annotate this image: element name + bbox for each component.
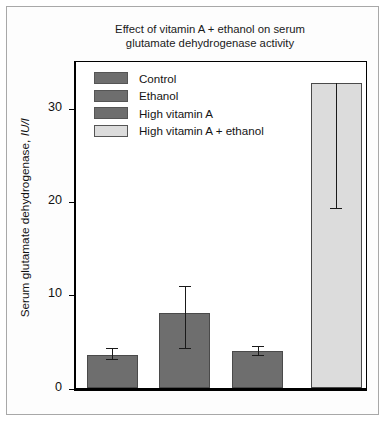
figure-container: Effect of vitamin A + ethanol on serum g… xyxy=(0,0,385,423)
y-axis-title-units: IU/l xyxy=(18,119,32,137)
error-bar-line xyxy=(112,348,113,358)
legend-item: High vitamin A xyxy=(94,105,264,122)
error-bar-cap-lower xyxy=(330,208,342,209)
y-axis-tick xyxy=(69,202,76,203)
legend-label: High vitamin A xyxy=(139,107,213,120)
error-bar-cap-lower xyxy=(252,355,264,356)
bar-high-vitamin-a xyxy=(232,351,283,388)
bar-control xyxy=(87,355,138,389)
error-bar-cap-lower xyxy=(106,359,118,360)
y-axis-tick-label: 30 xyxy=(48,100,62,114)
legend-label: High vitamin A + ethanol xyxy=(139,124,264,137)
chart-title: Effect of vitamin A + ethanol on serum g… xyxy=(60,22,360,50)
legend-swatch xyxy=(94,107,128,119)
legend-label: Ethanol xyxy=(139,89,178,102)
y-axis-tick-label: 20 xyxy=(48,193,62,207)
legend-label: Control xyxy=(139,72,176,85)
chart-title-line-2: glutamate dehydrogenase activity xyxy=(60,36,360,50)
legend-item: Ethanol xyxy=(94,88,264,105)
error-bar-cap-upper xyxy=(179,286,191,287)
chart-legend: ControlEthanolHigh vitamin AHigh vitamin… xyxy=(94,70,264,140)
error-bar-line xyxy=(258,346,259,355)
error-bar-cap-upper xyxy=(106,348,118,349)
error-bar-cap-upper xyxy=(252,346,264,347)
y-axis-tick xyxy=(69,389,76,390)
y-axis-tick xyxy=(69,295,76,296)
legend-swatch xyxy=(94,72,128,84)
y-axis-title-text: Serum glutamate dehydrogenase, xyxy=(18,136,32,317)
chart-title-line-1: Effect of vitamin A + ethanol on serum xyxy=(60,22,360,36)
legend-item: High vitamin A + ethanol xyxy=(94,123,264,140)
y-axis-tick xyxy=(69,109,76,110)
y-axis-labels: Serum glutamate dehydrogenase, IU/l 0102… xyxy=(0,61,74,391)
error-bar-line xyxy=(336,83,337,208)
error-bar-cap-lower xyxy=(179,348,191,349)
plot-area: ControlEthanolHigh vitamin AHigh vitamin… xyxy=(74,61,367,391)
error-bar-line xyxy=(185,286,186,349)
y-axis-tick-label: 0 xyxy=(55,380,62,394)
y-axis-tick-label: 10 xyxy=(48,286,62,300)
y-axis-title: Serum glutamate dehydrogenase, IU/l xyxy=(18,53,32,383)
legend-swatch xyxy=(94,90,128,102)
legend-swatch xyxy=(94,125,128,137)
legend-item: Control xyxy=(94,70,264,87)
